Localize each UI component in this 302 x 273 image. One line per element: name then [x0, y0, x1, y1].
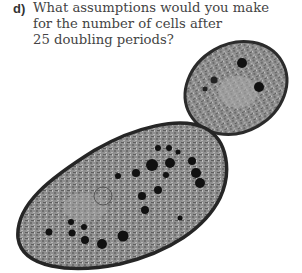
mother-cell	[18, 123, 227, 268]
yeast-cell-micrograph	[0, 0, 302, 273]
